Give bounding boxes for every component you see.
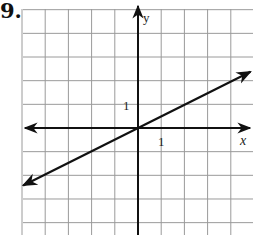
x-tick-label: 1	[158, 134, 165, 149]
y-axis-label: y	[143, 10, 150, 25]
x-axis-label: x	[239, 133, 247, 148]
y-tick-label: 1	[123, 98, 130, 113]
coordinate-plane: y x 1 1	[0, 0, 253, 235]
